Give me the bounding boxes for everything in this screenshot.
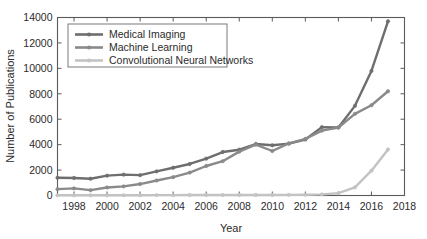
data-point-marker bbox=[188, 162, 191, 165]
data-point-marker bbox=[287, 142, 290, 145]
data-point-marker bbox=[320, 129, 323, 132]
data-point-marker bbox=[155, 170, 158, 173]
y-axis-title: Number of Publications bbox=[4, 49, 16, 163]
data-point-marker bbox=[89, 188, 92, 191]
legend-swatch-marker bbox=[87, 58, 91, 62]
data-point-marker bbox=[171, 175, 174, 178]
data-point-marker bbox=[271, 144, 274, 147]
data-point-marker bbox=[56, 194, 59, 197]
x-tick-label: 2012 bbox=[294, 200, 318, 212]
data-point-marker bbox=[171, 166, 174, 169]
data-point-marker bbox=[254, 193, 257, 196]
x-tick-label: 2004 bbox=[161, 200, 185, 212]
figure-container: 02000400060008000100001200014000 1998200… bbox=[0, 0, 427, 239]
chart-legend: Medical ImagingMachine LearningConvoluti… bbox=[68, 24, 253, 67]
data-point-marker bbox=[171, 193, 174, 196]
y-tick-label: 2000 bbox=[29, 164, 53, 176]
data-point-marker bbox=[122, 185, 125, 188]
data-point-marker bbox=[122, 173, 125, 176]
data-point-marker bbox=[386, 20, 389, 23]
data-point-marker bbox=[287, 193, 290, 196]
data-point-marker bbox=[105, 186, 108, 189]
data-point-marker bbox=[188, 193, 191, 196]
data-point-marker bbox=[370, 169, 373, 172]
data-point-marker bbox=[353, 186, 356, 189]
x-tick-label: 2016 bbox=[360, 200, 384, 212]
x-tick-label: 2010 bbox=[261, 200, 285, 212]
x-tick-label: 2002 bbox=[128, 200, 152, 212]
data-point-marker bbox=[238, 193, 241, 196]
y-tick-label: 14000 bbox=[23, 11, 52, 23]
x-tick-label: 1998 bbox=[62, 200, 86, 212]
x-tick-label: 2006 bbox=[195, 200, 219, 212]
data-point-marker bbox=[320, 193, 323, 196]
data-point-marker bbox=[370, 104, 373, 107]
data-point-marker bbox=[221, 150, 224, 153]
y-tick-label: 8000 bbox=[29, 88, 53, 100]
data-point-marker bbox=[138, 182, 141, 185]
publications-line-chart: 02000400060008000100001200014000 1998200… bbox=[0, 0, 427, 239]
data-point-marker bbox=[221, 193, 224, 196]
data-point-marker bbox=[304, 193, 307, 196]
legend-entry-label: Convolutional Neural Networks bbox=[109, 54, 253, 66]
data-point-marker bbox=[138, 193, 141, 196]
x-tick-label: 2000 bbox=[95, 200, 119, 212]
y-tick-label: 10000 bbox=[23, 62, 52, 74]
data-point-marker bbox=[72, 187, 75, 190]
data-point-marker bbox=[205, 193, 208, 196]
data-point-marker bbox=[205, 157, 208, 160]
data-point-marker bbox=[271, 149, 274, 152]
legend-entry-label: Medical Imaging bbox=[109, 28, 186, 40]
legend-swatch-marker bbox=[87, 45, 91, 49]
x-axis-tick-labels: 1998200020022004200620082010201220142016… bbox=[62, 200, 416, 212]
data-point-marker bbox=[238, 150, 241, 153]
legend-entry-label: Machine Learning bbox=[109, 41, 193, 53]
legend-swatch-marker bbox=[87, 32, 91, 36]
y-tick-label: 12000 bbox=[23, 37, 52, 49]
data-point-marker bbox=[122, 193, 125, 196]
data-point-marker bbox=[353, 104, 356, 107]
y-tick-label: 6000 bbox=[29, 113, 53, 125]
data-point-marker bbox=[188, 171, 191, 174]
data-point-marker bbox=[205, 164, 208, 167]
x-tick-label: 2008 bbox=[228, 200, 252, 212]
x-tick-label: 2014 bbox=[327, 200, 351, 212]
data-point-marker bbox=[155, 193, 158, 196]
data-point-marker bbox=[254, 143, 257, 146]
data-point-marker bbox=[105, 174, 108, 177]
data-point-marker bbox=[320, 125, 323, 128]
data-point-marker bbox=[105, 193, 108, 196]
data-point-marker bbox=[271, 193, 274, 196]
data-point-marker bbox=[370, 69, 373, 72]
y-tick-label: 4000 bbox=[29, 138, 53, 150]
data-point-marker bbox=[72, 194, 75, 197]
x-axis-title: Year bbox=[220, 222, 243, 234]
data-point-marker bbox=[138, 173, 141, 176]
data-point-marker bbox=[353, 112, 356, 115]
x-tick-label: 2018 bbox=[393, 200, 417, 212]
data-point-marker bbox=[56, 176, 59, 179]
y-tick-label: 0 bbox=[47, 189, 53, 201]
data-point-marker bbox=[386, 90, 389, 93]
data-point-marker bbox=[56, 187, 59, 190]
data-point-marker bbox=[337, 126, 340, 129]
data-point-marker bbox=[89, 177, 92, 180]
data-point-marker bbox=[72, 176, 75, 179]
data-point-marker bbox=[304, 137, 307, 140]
data-point-marker bbox=[386, 148, 389, 151]
data-point-marker bbox=[221, 159, 224, 162]
data-point-marker bbox=[337, 192, 340, 195]
data-point-marker bbox=[155, 179, 158, 182]
data-point-marker bbox=[89, 194, 92, 197]
